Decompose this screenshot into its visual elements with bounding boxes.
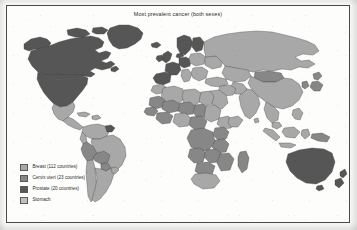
region-papua-new-guinea (311, 133, 330, 142)
region-egypt (199, 91, 214, 106)
region-malaysia (272, 122, 282, 129)
figure-page: Most prevalent cancer (both sexes) Breas… (0, 0, 357, 230)
region-korea (302, 81, 309, 89)
legend-swatch-cervix-uteri (20, 175, 28, 183)
legend-label-cervix-uteri: Cervix uteri (23 countries) (33, 175, 86, 181)
region-finland (192, 37, 204, 52)
region-norway-sweden (177, 35, 193, 55)
region-mozambique (217, 153, 234, 171)
legend-item-breast: Breast (112 countries) (20, 162, 130, 173)
region-spain-portugal (153, 72, 171, 85)
region-congo (187, 128, 215, 152)
region-borneo (282, 127, 300, 138)
region-java (279, 143, 296, 148)
region-canada-arctic-isl-1 (67, 28, 90, 37)
legend-item-cervix-uteri: Cervix uteri (23 countries) (20, 173, 130, 184)
region-japan (313, 72, 322, 80)
region-uk (162, 51, 172, 63)
region-iceland (151, 42, 161, 48)
region-cuba (77, 112, 90, 117)
legend-label-stomach: Stomach (33, 197, 51, 203)
region-hispaniola (92, 115, 101, 120)
region-australia (286, 148, 335, 184)
region-south-africa (191, 173, 220, 189)
region-kenya-uganda (213, 127, 229, 140)
region-balkans (191, 67, 208, 81)
region-newfoundland (111, 66, 119, 72)
region-central-america (63, 117, 83, 130)
legend-item-stomach: Stomach (20, 195, 130, 206)
region-sulawesi (301, 129, 310, 139)
legend-item-prostate: Prostate (20 countries) (20, 184, 130, 195)
region-somalia (228, 116, 243, 127)
region-tasmania (316, 185, 324, 191)
legend-label-prostate: Prostate (20 countries) (33, 186, 79, 192)
region-sumatra (263, 128, 280, 141)
region-madagascar (238, 151, 249, 173)
region-philippines (292, 108, 303, 120)
figure-frame: Most prevalent cancer (both sexes) Breas… (6, 5, 350, 223)
region-canada-arctic-isl-2 (92, 27, 108, 34)
legend-label-breast: Breast (112 countries) (33, 164, 78, 170)
region-greenland (107, 25, 143, 49)
legend-swatch-prostate (20, 186, 28, 194)
region-nigeria (173, 113, 191, 127)
region-sri-lanka (254, 118, 259, 123)
region-poland-baltics (189, 53, 206, 66)
region-new-zealand-south (335, 178, 344, 188)
legend-swatch-stomach (20, 197, 28, 205)
legend-swatch-breast (20, 164, 28, 172)
region-guyanas (105, 125, 115, 132)
region-ivory-coast-ghana (156, 112, 173, 124)
region-new-zealand-north (340, 169, 347, 178)
map-legend: Breast (112 countries) Cervix uteri (23 … (20, 162, 130, 206)
region-italy (181, 69, 192, 82)
region-japan-honshu (310, 81, 323, 91)
map-title: Most prevalent cancer (both sexes) (7, 11, 349, 18)
